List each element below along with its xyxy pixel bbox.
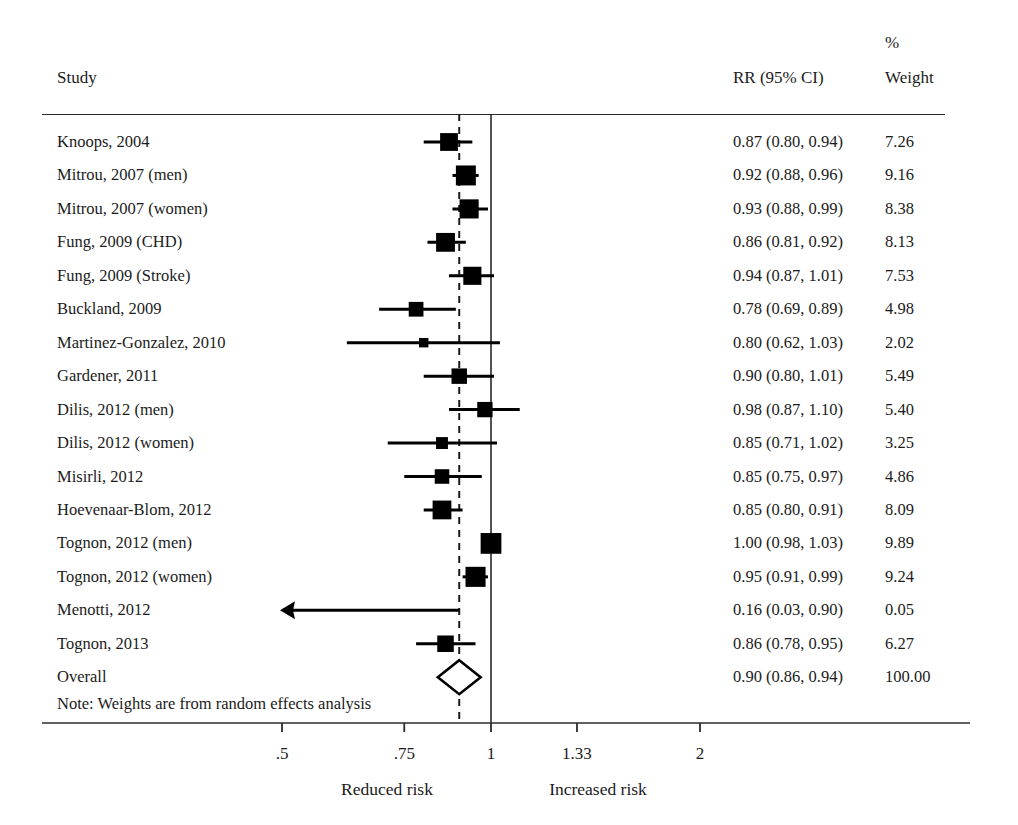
x-axis-group (42, 723, 970, 732)
row-label-study: Hoevenaar-Blom, 2012 (57, 502, 212, 519)
x-axis-tick-label: 1 (487, 744, 496, 764)
row-weight-value: 3.25 (885, 435, 914, 452)
row-label-study: Fung, 2009 (CHD) (57, 234, 182, 251)
row-label-study: Knoops, 2004 (57, 134, 150, 151)
study-marker-square (463, 267, 481, 285)
row-rr-value: 0.93 (0.88, 0.99) (733, 201, 843, 218)
x-axis-tick-label: 2 (696, 744, 705, 764)
study-markers-group (280, 133, 520, 694)
x-axis-tick-label: 1.33 (562, 744, 592, 764)
row-weight-value: 100.00 (885, 669, 930, 686)
study-marker-square (451, 368, 466, 383)
note-text: Note: Weights are from random effects an… (57, 694, 371, 714)
row-weight-value: 7.26 (885, 134, 914, 151)
study-marker-square (436, 437, 448, 449)
row-weight-value: 0.05 (885, 602, 914, 619)
row-weight-value: 8.38 (885, 201, 914, 218)
row-weight-value: 4.86 (885, 469, 914, 486)
row-rr-value: 0.98 (0.87, 1.10) (733, 402, 843, 419)
row-rr-value: 0.85 (0.80, 0.91) (733, 502, 843, 519)
study-marker-square (433, 501, 452, 520)
row-weight-value: 4.98 (885, 301, 914, 318)
study-marker-square (409, 302, 424, 317)
study-marker-square (435, 469, 450, 484)
row-rr-value: 0.87 (0.80, 0.94) (733, 134, 843, 151)
row-label-study: Gardener, 2011 (57, 368, 158, 385)
x-axis-tick-label: .5 (276, 744, 289, 764)
study-marker-square (436, 233, 455, 252)
row-rr-value: 0.80 (0.62, 1.03) (733, 335, 843, 352)
x-axis-tick-label: .75 (394, 744, 415, 764)
study-marker-square (460, 199, 479, 218)
row-label-overall: Overall (57, 669, 106, 686)
row-label-study: Dilis, 2012 (men) (57, 402, 174, 419)
row-rr-value: 0.85 (0.75, 0.97) (733, 469, 843, 486)
row-rr-value: 0.86 (0.78, 0.95) (733, 636, 843, 653)
row-label-study: Dilis, 2012 (women) (57, 435, 194, 452)
row-rr-value: 0.90 (0.86, 0.94) (733, 669, 843, 686)
study-marker-square (437, 635, 454, 652)
axis-caption-reduced-risk: Reduced risk (341, 779, 433, 800)
study-marker-square (477, 402, 492, 417)
row-label-study: Tognon, 2013 (57, 636, 148, 653)
row-rr-value: 0.90 (0.80, 1.01) (733, 368, 843, 385)
row-rr-value: 0.86 (0.81, 0.92) (733, 234, 843, 251)
row-label-study: Misirli, 2012 (57, 469, 143, 486)
study-marker-square (456, 165, 476, 185)
study-marker-square (419, 338, 428, 347)
row-weight-value: 5.49 (885, 368, 914, 385)
overall-diamond (438, 660, 481, 694)
study-marker-square (481, 533, 502, 554)
row-label-study: Mitrou, 2007 (women) (57, 201, 208, 218)
row-weight-value: 6.27 (885, 636, 914, 653)
row-label-study: Tognon, 2012 (women) (57, 569, 212, 586)
row-rr-value: 0.85 (0.71, 1.02) (733, 435, 843, 452)
row-rr-value: 1.00 (0.98, 1.03) (733, 535, 843, 552)
row-label-study: Mitrou, 2007 (men) (57, 167, 188, 184)
row-weight-value: 7.53 (885, 268, 914, 285)
row-weight-value: 2.02 (885, 335, 914, 352)
row-rr-value: 0.92 (0.88, 0.96) (733, 167, 843, 184)
row-label-study: Buckland, 2009 (57, 301, 162, 318)
forest-plot: Study RR (95% CI) % Weight Knoops, 20040… (0, 0, 1018, 825)
ci-arrowhead-left (280, 601, 295, 619)
row-weight-value: 9.16 (885, 167, 914, 184)
row-weight-value: 8.09 (885, 502, 914, 519)
row-label-study: Fung, 2009 (Stroke) (57, 268, 190, 285)
row-rr-value: 0.95 (0.91, 0.99) (733, 569, 843, 586)
row-weight-value: 9.24 (885, 569, 914, 586)
row-label-study: Tognon, 2012 (men) (57, 535, 192, 552)
row-rr-value: 0.16 (0.03, 0.90) (733, 602, 843, 619)
row-weight-value: 5.40 (885, 402, 914, 419)
row-rr-value: 0.94 (0.87, 1.01) (733, 268, 843, 285)
axis-caption-increased-risk: Increased risk (549, 779, 647, 800)
study-marker-square (466, 567, 486, 587)
row-weight-value: 8.13 (885, 234, 914, 251)
study-marker-square (440, 133, 458, 151)
row-label-study: Martinez-Gonzalez, 2010 (57, 335, 226, 352)
row-label-study: Menotti, 2012 (57, 602, 151, 619)
row-weight-value: 9.89 (885, 535, 914, 552)
row-rr-value: 0.78 (0.69, 0.89) (733, 301, 843, 318)
